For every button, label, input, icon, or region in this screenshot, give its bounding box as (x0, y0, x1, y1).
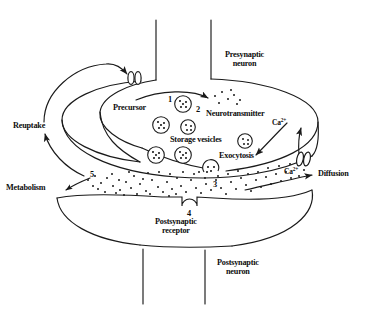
postsynaptic-receptor-line2: receptor (155, 227, 197, 236)
presynaptic-axon (156, 20, 211, 80)
calcium-bottom-label: Ca2+ (284, 167, 298, 176)
diagram-canvas (0, 0, 366, 313)
step-2-number: 2 (196, 105, 200, 114)
neurotransmitter-label: Neurotransmitter (206, 110, 265, 119)
storage-vesicle-4 (148, 147, 165, 164)
storage-vesicle-2 (153, 117, 170, 134)
postsynaptic-neuron-label: Postsynaptic neuron (217, 259, 259, 277)
calcium-top-charge: 2+ (281, 117, 286, 123)
synthesis-arrow (136, 92, 208, 100)
reuptake-pathway (44, 64, 127, 176)
calcium-bottom-charge: 2+ (293, 166, 298, 172)
precursor-label: Precursor (113, 104, 146, 113)
storage-vesicle-6 (238, 134, 253, 149)
calcium-bottom-text: Ca (284, 167, 293, 176)
calcium-influx-arrow (299, 128, 301, 155)
presynaptic-neuron-label: Presynaptic neuron (225, 51, 264, 69)
fusing-vesicle (203, 160, 219, 173)
reuptake-transporter (128, 72, 141, 85)
reuptake-label: Reuptake (13, 122, 45, 131)
storage-vesicle-3 (181, 120, 196, 135)
calcium-channel (295, 151, 311, 166)
presynaptic-neuron-line2: neuron (225, 60, 264, 69)
diffusion-label: Diffusion (318, 170, 349, 179)
step-3-number: 3 (213, 180, 217, 189)
calcium-top-label: Ca2+ (272, 118, 286, 127)
step-1-number: 1 (168, 95, 172, 104)
exocytosis-label: Exocytosis (219, 152, 254, 161)
postsynaptic-dendrite (143, 249, 205, 304)
storage-vesicle-1 (175, 96, 192, 113)
storage-vesicle-5 (175, 147, 192, 164)
diffusion-arrow (245, 175, 312, 190)
storage-vesicles-label: Storage vesicles (170, 136, 222, 145)
metabolism-label: Metabolism (6, 184, 45, 193)
step-5-number: 5 (90, 170, 94, 179)
metabolism-arrow (66, 178, 90, 190)
postsynaptic-receptor-label: Postsynaptic receptor (155, 218, 197, 236)
postsynaptic-neuron-line2: neuron (217, 268, 259, 277)
exocytosis-arrow (256, 123, 287, 155)
calcium-top-text: Ca (272, 118, 281, 127)
synapse-diagram: Presynaptic neuron Precursor 1 2 Neurotr… (0, 0, 366, 313)
